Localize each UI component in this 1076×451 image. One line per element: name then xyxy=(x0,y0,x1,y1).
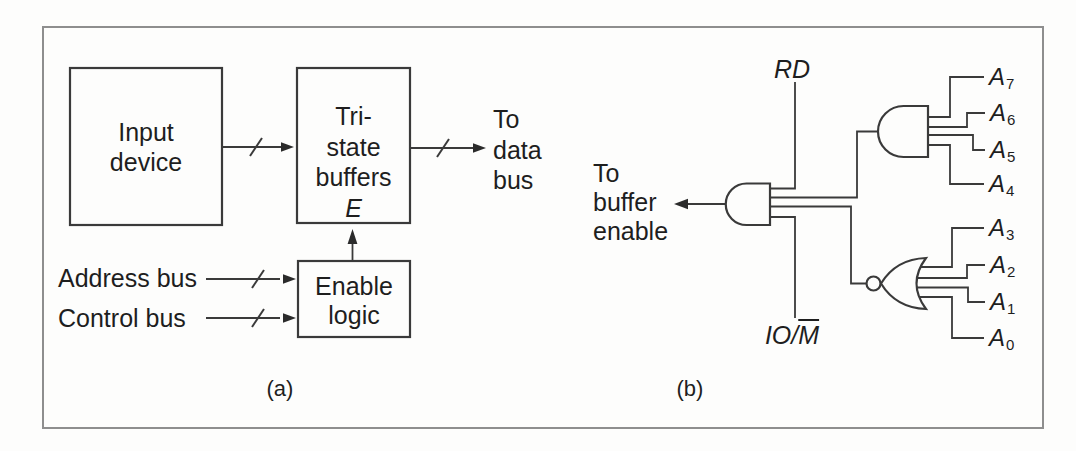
signal-label-a0: A0 xyxy=(989,323,1014,360)
panel-b-arrowheads xyxy=(674,199,688,210)
signal-label-a7: A7 xyxy=(989,62,1014,99)
arrowhead-up-icon xyxy=(348,229,358,244)
signal-label-a5: A5 xyxy=(990,135,1015,172)
caption-a: (a) xyxy=(254,374,306,404)
caption-b: (b) xyxy=(664,374,716,404)
signal-label-a4: A4 xyxy=(989,169,1014,206)
nor-gate-low-address xyxy=(881,258,926,309)
to-data-bus-label: To data bus xyxy=(493,104,542,196)
panel-b-gates xyxy=(726,106,928,309)
address-bus-label: Address bus xyxy=(58,263,197,293)
signal-label-a1: A1 xyxy=(990,287,1015,324)
arrowhead-right-icon xyxy=(473,143,486,153)
and-gate-main xyxy=(726,184,770,226)
input-device-label: Input device xyxy=(70,68,222,225)
tristate-buffers-label: Tri- state buffers E xyxy=(297,101,410,223)
arrowhead-right-icon xyxy=(283,274,296,284)
to-buffer-enable-label: To buffer enable xyxy=(593,159,668,246)
enable-pin-label: E xyxy=(297,193,410,224)
arrowhead-right-icon xyxy=(281,142,294,152)
arrowhead-right-icon xyxy=(283,313,296,323)
enable-logic-label: Enable logic xyxy=(298,272,410,330)
control-bus-label: Control bus xyxy=(58,303,186,333)
signal-label-a3: A3 xyxy=(989,213,1014,250)
nor-bubble-icon xyxy=(867,277,881,291)
iom-signal-label: IO/M xyxy=(756,320,828,350)
wire-iom xyxy=(752,217,795,318)
wire-rd xyxy=(752,82,795,189)
signal-label-a6: A6 xyxy=(990,98,1015,135)
rd-signal-label: RD xyxy=(764,54,820,84)
signal-label-a2: A2 xyxy=(990,250,1015,287)
arrowhead-left-icon xyxy=(674,199,688,210)
figure-canvas: Input device Tri- state buffers E Enable… xyxy=(0,0,1076,451)
and-gate-high-address xyxy=(878,106,928,157)
